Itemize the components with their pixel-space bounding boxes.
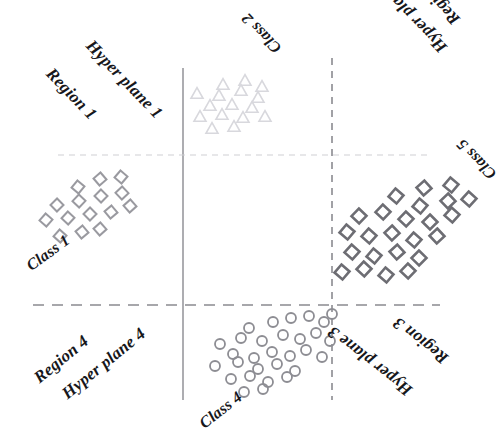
marker-class-1 [50, 198, 63, 211]
marker-class-4 [290, 366, 300, 376]
marker-class-4 [245, 371, 255, 381]
marker-class-1 [93, 172, 107, 186]
marker-class-1 [75, 225, 89, 239]
marker-class-4 [215, 339, 225, 349]
marker-class-1 [61, 211, 74, 224]
marker-class-2 [206, 123, 218, 134]
hyperplane-lines-layer [0, 0, 496, 437]
marker-class-4 [258, 384, 268, 394]
marker-class-2 [216, 109, 228, 120]
series-class-2 [191, 75, 271, 134]
marker-class-5 [356, 261, 372, 277]
marker-class-1 [114, 170, 128, 184]
series-class-4 [210, 309, 337, 397]
marker-class-2 [259, 111, 271, 122]
marker-class-1 [93, 222, 107, 236]
series-class-1 [39, 170, 137, 243]
marker-class-4 [226, 374, 236, 384]
marker-class-4 [285, 351, 295, 361]
marker-class-5 [443, 177, 459, 193]
marker-class-4 [311, 328, 321, 338]
marker-class-4 [286, 313, 296, 323]
marker-class-2 [237, 112, 249, 123]
marker-class-4 [228, 349, 238, 359]
marker-class-5 [344, 244, 360, 260]
marker-class-4 [210, 361, 220, 371]
marker-class-1 [39, 213, 53, 227]
marker-class-5 [400, 263, 415, 278]
marker-class-4 [272, 359, 282, 369]
marker-class-4 [257, 336, 267, 346]
marker-class-4 [253, 364, 263, 374]
marker-class-1 [83, 207, 96, 220]
marker-class-5 [429, 228, 444, 243]
marker-class-4 [233, 357, 243, 367]
marker-class-1 [115, 186, 128, 199]
label-class-2: Class 2 [238, 9, 285, 57]
marker-class-5 [422, 214, 437, 229]
marker-class-4 [327, 309, 337, 319]
marker-class-2 [204, 100, 216, 111]
marker-class-2 [246, 102, 258, 113]
class-markers-layer [0, 0, 496, 437]
marker-class-5 [334, 264, 350, 280]
marker-class-5 [375, 204, 390, 219]
marker-class-4 [249, 353, 259, 363]
label-class-1: Class 1 [23, 231, 73, 274]
marker-class-4 [236, 333, 246, 343]
label-region-1: Region 1 [42, 64, 101, 124]
marker-class-2 [217, 79, 229, 90]
marker-class-5 [378, 267, 394, 283]
marker-class-1 [123, 199, 137, 213]
marker-class-4 [301, 345, 311, 355]
marker-class-4 [317, 352, 327, 362]
marker-class-2 [256, 81, 268, 92]
marker-class-4 [319, 317, 329, 327]
marker-class-5 [384, 225, 399, 240]
marker-class-5 [398, 211, 413, 226]
marker-class-5 [351, 208, 366, 223]
marker-class-5 [366, 248, 382, 264]
marker-class-4 [278, 330, 288, 340]
marker-class-4 [295, 334, 305, 344]
marker-class-2 [239, 75, 251, 86]
marker-class-5 [444, 207, 460, 223]
marker-class-5 [339, 224, 355, 240]
marker-class-1 [94, 189, 107, 202]
marker-class-2 [191, 88, 203, 99]
series-class-5 [334, 177, 477, 283]
marker-class-2 [235, 85, 247, 96]
marker-class-2 [194, 111, 206, 122]
marker-class-4 [304, 311, 314, 321]
figure-canvas: Hyper plane 1Region 1Class 2Region 2Hype… [0, 0, 496, 437]
marker-class-5 [440, 193, 455, 208]
marker-class-5 [406, 232, 422, 248]
marker-class-5 [412, 198, 428, 214]
marker-class-4 [263, 377, 273, 387]
marker-class-4 [244, 323, 254, 333]
marker-class-1 [104, 205, 118, 219]
label-region-3: Region 3 [389, 313, 452, 368]
marker-class-4 [267, 347, 277, 357]
marker-class-1 [72, 194, 85, 207]
marker-class-2 [226, 99, 238, 110]
marker-class-5 [461, 191, 477, 207]
label-class-4: Class 4 [196, 388, 246, 432]
marker-class-5 [388, 188, 404, 204]
marker-class-2 [213, 90, 225, 101]
marker-class-5 [389, 244, 405, 260]
marker-class-4 [282, 372, 292, 382]
marker-class-5 [416, 180, 432, 196]
marker-class-5 [361, 228, 377, 244]
marker-class-2 [228, 121, 240, 132]
marker-class-2 [252, 92, 264, 103]
marker-class-4 [268, 317, 278, 327]
label-class-5: Class 5 [453, 135, 496, 183]
marker-class-5 [411, 250, 426, 265]
marker-class-1 [71, 180, 85, 194]
